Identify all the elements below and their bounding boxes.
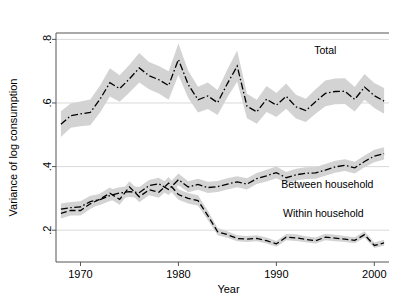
x-tick-label: 2000 <box>362 268 386 280</box>
x-axis-title: Year <box>217 283 240 295</box>
series-label-within-household: Within household <box>283 207 364 219</box>
y-tick-label: .2 <box>41 226 53 235</box>
x-tick-label: 1970 <box>68 268 92 280</box>
x-tick-label: 1980 <box>166 268 190 280</box>
y-tick-label: .6 <box>41 98 53 107</box>
series-label-between-household: Between household <box>281 178 373 190</box>
x-tick-label: 1990 <box>264 268 288 280</box>
series-label-total: Total <box>314 44 336 56</box>
variance-of-log-consumption-line-chart: .2.4.6.8 1970198019902000 Variance of lo… <box>0 0 410 308</box>
chart-figure: .2.4.6.8 1970198019902000 Variance of lo… <box>0 0 410 308</box>
y-axis-title: Variance of log consumption <box>7 79 19 217</box>
y-tick-label: .8 <box>41 35 53 44</box>
y-tick-label: .4 <box>41 162 53 171</box>
